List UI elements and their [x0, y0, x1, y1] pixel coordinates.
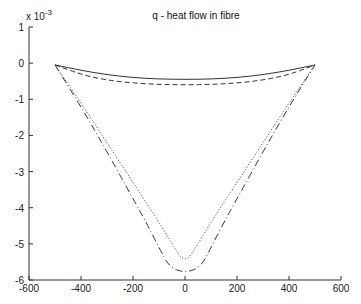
y-tick-label: 0 [18, 58, 24, 69]
y-tick-label: -4 [15, 203, 24, 214]
y-tick-label: -3 [15, 167, 24, 178]
chart-figure: q - heat flow in fibre x 10-3 10-1-2-3-4… [0, 0, 361, 304]
chart-title: q - heat flow in fibre [152, 10, 240, 21]
y-tick-label: -5 [15, 239, 24, 250]
x-tick-label: 200 [229, 283, 246, 294]
series-line-dotted [55, 65, 315, 259]
y-tick-label: -2 [15, 130, 24, 141]
y-axis: 10-1-2-3-4-5-6 [15, 22, 33, 286]
y-tick-label: 1 [18, 22, 24, 33]
x-axis: -600-400-2000200400600 [19, 276, 350, 294]
plot-lines [55, 65, 315, 271]
x-tick-label: 600 [333, 283, 350, 294]
x-tick-label: -400 [71, 283, 91, 294]
x-tick-label: 400 [281, 283, 298, 294]
series-line-dash-dot [55, 65, 315, 271]
series-line-dashed [55, 65, 315, 85]
x-tick-label: 0 [182, 283, 188, 294]
y-multiplier: x 10-3 [26, 8, 53, 22]
x-tick-label: -200 [123, 283, 143, 294]
y-tick-label: -1 [15, 94, 24, 105]
x-tick-label: -600 [19, 283, 39, 294]
